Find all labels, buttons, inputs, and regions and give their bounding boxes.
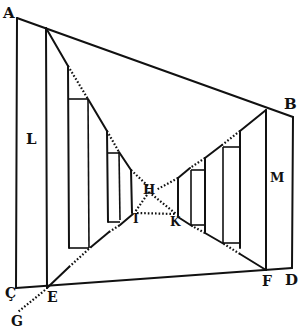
label-G: G (11, 313, 23, 329)
outer-frame (16, 18, 293, 288)
left-top-edge-2 (88, 99, 107, 131)
right-top-dotted-to-H (156, 178, 178, 190)
right-floor-edge-2 (205, 233, 224, 244)
left-panel-edge-3b (119, 152, 120, 220)
right-top-dotted-1 (222, 131, 240, 145)
left-top-edge-3 (119, 152, 131, 170)
perspective-diagram: A B Ç D E F G H I K L M (0, 0, 307, 330)
label-B: B (284, 95, 297, 113)
label-D: D (285, 271, 298, 289)
left-floor-dotted-1 (69, 247, 91, 267)
right-floor-dotted-1 (224, 244, 240, 254)
left-wall (46, 28, 148, 288)
line-A-B (17, 18, 293, 117)
label-C: Ç (5, 285, 16, 301)
line-A-C (16, 18, 17, 288)
right-floor-dotted-2 (192, 226, 205, 233)
right-floor-edge-1 (240, 254, 266, 270)
line-B-D (292, 117, 293, 268)
left-top-edge-1 (46, 28, 68, 66)
right-wall (156, 110, 266, 270)
right-top-dotted-2 (190, 158, 205, 168)
label-K: K (170, 215, 181, 229)
left-floor-dotted-2 (109, 225, 120, 232)
right-top-edge-2 (205, 145, 222, 158)
line-I-K (137, 213, 176, 214)
right-top-edge-3 (178, 168, 190, 178)
line-E-G (18, 290, 45, 312)
label-H: H (143, 182, 155, 197)
label-L: L (26, 130, 37, 148)
label-E: E (47, 289, 58, 305)
left-top-dotted-1 (68, 66, 88, 99)
left-panel-edge-4 (131, 170, 132, 213)
left-panel-edge-1 (46, 28, 47, 288)
right-top-edge-1 (240, 110, 266, 131)
left-floor-edge-2 (91, 232, 109, 247)
left-top-dotted-2 (107, 131, 119, 152)
label-F: F (262, 273, 272, 289)
label-M: M (270, 170, 284, 185)
label-I: I (133, 212, 139, 226)
left-floor-edge-3 (120, 214, 133, 225)
label-A: A (2, 4, 15, 22)
left-panel-edge-3 (107, 131, 108, 222)
left-panel-edge-2 (68, 66, 69, 248)
vanishing-lines (18, 192, 176, 312)
left-panel-edge-2b (88, 99, 89, 248)
